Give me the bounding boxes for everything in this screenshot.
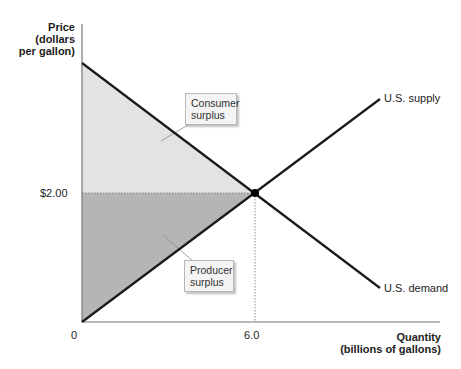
y-axis-label: Price (dollars per gallon) <box>4 21 75 57</box>
consumer-surplus-callout-line2: surplus <box>191 109 231 121</box>
quantity-tick-label: 6.0 <box>244 329 259 341</box>
y-axis-label-line2: (dollars <box>4 33 75 45</box>
demand-curve-label: U.S. demand <box>384 282 448 294</box>
producer-surplus-callout-line2: surplus <box>190 276 228 288</box>
x-axis-label-line1: Quantity <box>340 331 441 343</box>
price-tick-label: $2.00 <box>40 187 68 199</box>
x-axis-label: Quantity (billions of gallons) <box>340 331 441 355</box>
consumer-surplus-callout: Consumer surplus <box>185 93 237 125</box>
producer-surplus-callout: Producer surplus <box>184 260 234 292</box>
supply-curve-label: U.S. supply <box>384 92 440 104</box>
y-axis-label-line3: per gallon) <box>4 45 75 57</box>
x-axis-label-line2: (billions of gallons) <box>340 343 441 355</box>
equilibrium-point <box>251 189 259 197</box>
y-axis-label-line1: Price <box>4 21 75 33</box>
origin-tick-label: 0 <box>71 329 77 341</box>
consumer-surplus-callout-line1: Consumer <box>191 97 231 109</box>
producer-surplus-callout-line1: Producer <box>190 264 228 276</box>
